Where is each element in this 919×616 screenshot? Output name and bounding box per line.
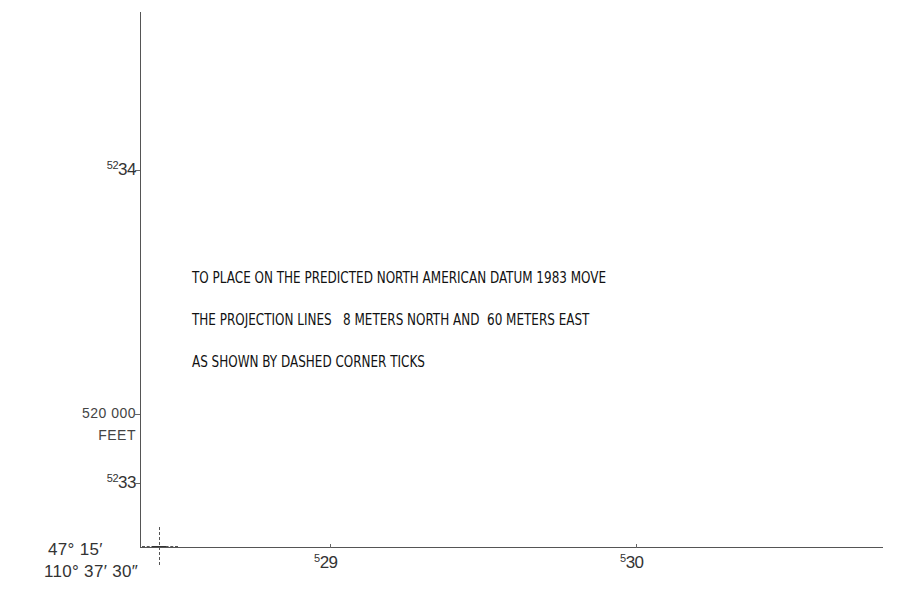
northing-tick-5234 bbox=[135, 170, 140, 171]
datum-shift-note: TO PLACE ON THE PREDICTED NORTH AMERICAN… bbox=[192, 243, 606, 383]
northing-main: 33 bbox=[118, 473, 136, 492]
easting-main: 30 bbox=[626, 553, 644, 572]
state-plane-value: 520 000 bbox=[50, 405, 136, 421]
easting-label-529: 529 bbox=[314, 552, 338, 573]
northing-prefix: 52 bbox=[107, 159, 118, 171]
northing-label-5233: 5233 bbox=[70, 472, 136, 493]
datum-note-line-1: TO PLACE ON THE PREDICTED NORTH AMERICAN… bbox=[192, 271, 606, 285]
nad83-corner-cross bbox=[152, 546, 166, 547]
easting-label-530: 530 bbox=[620, 552, 644, 573]
northing-tick-5233 bbox=[135, 483, 140, 484]
northing-label-5234: 5234 bbox=[70, 159, 136, 180]
map-neatline-south bbox=[140, 547, 883, 548]
easting-main: 29 bbox=[320, 553, 338, 572]
datum-note-line-2: THE PROJECTION LINES 8 METERS NORTH AND … bbox=[192, 313, 606, 327]
northing-prefix: 52 bbox=[107, 472, 118, 484]
datum-note-line-3: AS SHOWN BY DASHED CORNER TICKS bbox=[192, 355, 606, 369]
easting-tick-529 bbox=[330, 544, 331, 548]
easting-tick-530 bbox=[636, 544, 637, 548]
map-neatline-west bbox=[140, 12, 141, 548]
corner-latitude: 47° 15′ bbox=[48, 540, 103, 560]
corner-longitude: 110° 37′ 30″ bbox=[44, 562, 138, 582]
northing-main: 34 bbox=[118, 160, 136, 179]
state-plane-unit: FEET bbox=[50, 427, 136, 443]
state-plane-tick bbox=[135, 414, 140, 415]
